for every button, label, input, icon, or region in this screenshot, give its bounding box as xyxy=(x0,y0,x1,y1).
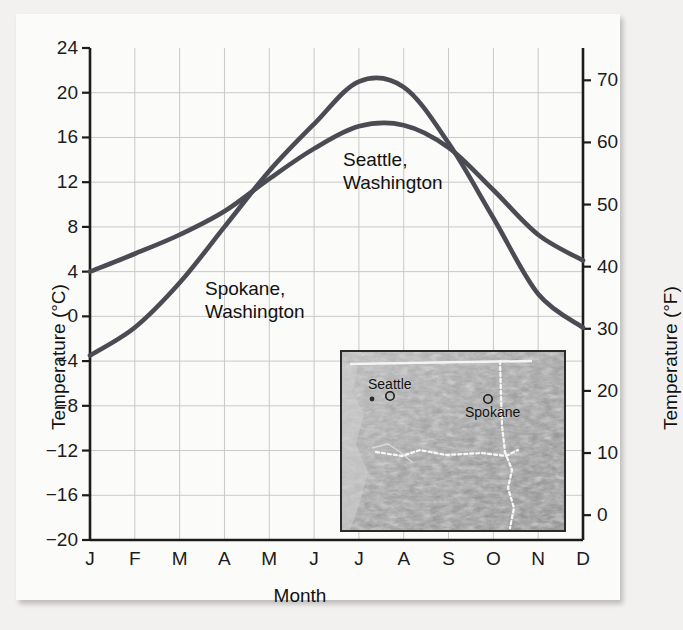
x-axis-tick-label: F xyxy=(115,548,155,570)
y-axis-left-tick-label: −8 xyxy=(12,395,78,417)
y-axis-right-tick-label: 40 xyxy=(597,256,618,278)
map-label-spokane: Spokane xyxy=(465,404,520,420)
y-axis-left-tick-label: 12 xyxy=(12,171,78,193)
y-axis-left-tick-label: 20 xyxy=(12,82,78,104)
y-axis-left-tick-label: −12 xyxy=(12,440,78,462)
x-axis-tick-label: N xyxy=(518,548,558,570)
x-axis-tick-label: J xyxy=(70,548,110,570)
page-background: Temperature (°C) Temperature (°F) Month … xyxy=(0,0,683,630)
x-axis-tick-label: A xyxy=(384,548,424,570)
x-axis-title: Month xyxy=(0,585,600,607)
y-axis-right-tick-label: 50 xyxy=(597,194,618,216)
x-axis-tick-label: A xyxy=(204,548,244,570)
y-axis-right-tick-label: 10 xyxy=(597,442,618,464)
series-label-spokane-line2: Washington xyxy=(205,300,305,323)
series-label-spokane-line1: Spokane, xyxy=(205,277,305,300)
inset-map: Seattle Spokane xyxy=(340,350,566,532)
y-axis-right-tick-label: 60 xyxy=(597,131,618,153)
x-axis-tick-label: D xyxy=(563,548,603,570)
y-axis-left-tick-label: 4 xyxy=(12,261,78,283)
series-label-spokane: Spokane, Washington xyxy=(205,277,305,323)
y-axis-left-tick-label: 24 xyxy=(12,37,78,59)
y-axis-left-tick-label: −16 xyxy=(12,484,78,506)
y-axis-left-tick-label: 16 xyxy=(12,126,78,148)
series-label-seattle: Seattle, Washington xyxy=(343,148,443,194)
series-label-seattle-line2: Washington xyxy=(343,171,443,194)
map-label-seattle: Seattle xyxy=(368,376,412,392)
y-axis-right-tick-label: 20 xyxy=(597,380,618,402)
x-axis-tick-label: J xyxy=(339,548,379,570)
series-line-spokane xyxy=(90,78,583,356)
series-label-seattle-line1: Seattle, xyxy=(343,148,443,171)
x-axis-tick-label: M xyxy=(249,548,289,570)
y-axis-right-tick-label: 70 xyxy=(597,69,618,91)
y-axis-left-tick-label: −20 xyxy=(12,529,78,551)
temperature-line-chart xyxy=(0,0,683,630)
x-axis-tick-label: S xyxy=(429,548,469,570)
y-axis-left-tick-label: 0 xyxy=(12,305,78,327)
x-axis-tick-label: M xyxy=(160,548,200,570)
y-axis-right-tick-label: 0 xyxy=(597,504,608,526)
y-axis-right-title: Temperature (°F) xyxy=(660,286,682,430)
data-series xyxy=(90,78,583,356)
x-axis-tick-label: O xyxy=(473,548,513,570)
y-axis-left-tick-label: 8 xyxy=(12,216,78,238)
y-axis-right-tick-label: 30 xyxy=(597,318,618,340)
y-axis-left-tick-label: −4 xyxy=(12,350,78,372)
x-axis-tick-label: J xyxy=(294,548,334,570)
